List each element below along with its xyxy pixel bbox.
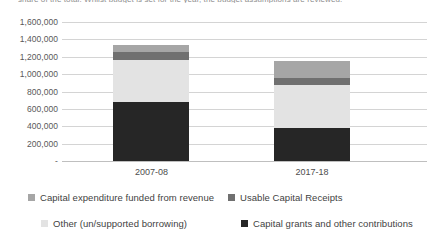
y-axis: 1,600,0001,400,0001,200,0001,000,000800,… — [0, 12, 62, 164]
clipped-caption-text: share of the total. Whilst budget is set… — [18, 0, 418, 3]
bar-segment[interactable] — [274, 78, 350, 85]
bar-stack[interactable] — [113, 45, 189, 161]
legend-row: Other (un/supported borrowing)Capital gr… — [0, 216, 433, 242]
legend-swatch-icon — [228, 194, 235, 201]
y-axis-tick-label: 1,400,000 — [20, 35, 58, 44]
bar-segment[interactable] — [113, 52, 189, 60]
legend-swatch-icon — [28, 194, 35, 201]
bar-segment[interactable] — [274, 61, 350, 78]
y-axis-tick-label: 1,200,000 — [20, 52, 58, 61]
legend-label: Other (un/supported borrowing) — [53, 218, 187, 229]
bar-segment[interactable] — [113, 45, 189, 53]
x-axis-tick-label: 2017-18 — [296, 166, 329, 178]
y-axis-tick-label: 600,000 — [27, 104, 58, 113]
capital-funding-stacked-bar-chart: share of the total. Whilst budget is set… — [0, 0, 433, 248]
bar-segment[interactable] — [113, 60, 189, 102]
chart-legend: Capital expenditure funded from revenueU… — [0, 190, 433, 242]
legend-swatch-icon — [41, 220, 48, 227]
legend-swatch-icon — [241, 220, 248, 227]
legend-label: Capital grants and other contributions — [253, 218, 413, 229]
legend-item[interactable]: Usable Capital Receipts — [228, 192, 343, 203]
bar-segment[interactable] — [274, 85, 350, 128]
legend-label: Usable Capital Receipts — [240, 192, 343, 203]
y-axis-tick-label: 400,000 — [27, 122, 58, 131]
legend-item[interactable]: Capital grants and other contributions — [241, 218, 413, 229]
y-axis-tick-label: 200,000 — [27, 139, 58, 148]
bar-group — [62, 12, 427, 164]
bar-segment[interactable] — [274, 128, 350, 161]
x-axis-tick-label: 2007-08 — [135, 166, 168, 178]
y-axis-tick-label: 800,000 — [27, 87, 58, 96]
y-axis-tick-label: - — [55, 157, 58, 166]
legend-label: Capital expenditure funded from revenue — [40, 192, 214, 203]
y-axis-tick-label: 1,000,000 — [20, 70, 58, 79]
plot-area — [62, 12, 427, 164]
bar-segment[interactable] — [113, 102, 189, 161]
y-axis-tick-label: 1,600,000 — [20, 18, 58, 27]
legend-row: Capital expenditure funded from revenueU… — [0, 190, 433, 216]
bar-stack[interactable] — [274, 61, 350, 161]
legend-item[interactable]: Capital expenditure funded from revenue — [28, 192, 214, 203]
x-axis: 2007-082017-18 — [62, 166, 427, 180]
legend-item[interactable]: Other (un/supported borrowing) — [41, 218, 187, 229]
plot-wrapper: 1,600,0001,400,0001,200,0001,000,000800,… — [0, 12, 433, 164]
